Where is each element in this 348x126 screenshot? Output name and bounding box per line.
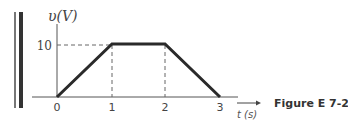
- x-tick-0: 0: [54, 101, 61, 114]
- x-tick-3: 3: [217, 101, 224, 114]
- y-axis-label: υ(V): [48, 8, 78, 24]
- x-axis-label: t (s): [237, 109, 257, 120]
- figure-e-7-2: υ(V) 10 0 1 2 3 t (s) Figure E 7-2: [0, 0, 348, 126]
- figure-caption: Figure E 7-2: [274, 97, 348, 110]
- y-tick-10: 10: [37, 39, 52, 53]
- time-arrow-icon: [237, 101, 261, 106]
- x-tick-1: 1: [109, 101, 116, 114]
- margin-bar-thin: [14, 12, 16, 108]
- x-tick-2: 2: [162, 101, 169, 114]
- voltage-waveform: [57, 44, 220, 97]
- margin-bar-thick: [19, 12, 23, 108]
